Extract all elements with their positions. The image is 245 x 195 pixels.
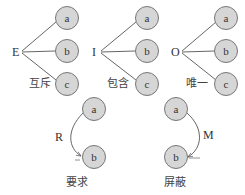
node-a: a (136, 7, 159, 30)
connector-line (22, 22, 56, 51)
operator-label: M (203, 128, 214, 142)
connector-line (101, 22, 136, 51)
operator-label: E (12, 45, 19, 59)
constraint-diagram: E a b c 互斥 I a b c 包含 (0, 0, 245, 195)
svg-text:a: a (224, 12, 229, 24)
connector-line (22, 51, 55, 52)
connector-line (101, 51, 135, 52)
node-a: a (56, 7, 79, 30)
node-c: c (56, 73, 79, 96)
connector-line (101, 53, 136, 80)
group-caption: 互斥 (29, 77, 51, 90)
svg-text:c: c (145, 78, 150, 90)
connector-line (22, 53, 56, 80)
svg-text:b: b (223, 45, 229, 57)
connector-line (182, 22, 216, 51)
group-exclusive: E a b c 互斥 (12, 7, 79, 96)
operator-label: I (92, 45, 96, 59)
group-inclusive: I a b c 包含 (92, 7, 159, 96)
svg-text:c: c (224, 78, 229, 90)
svg-text:b: b (173, 151, 179, 163)
svg-text:c: c (65, 78, 70, 90)
relation-caption: 要求 (66, 176, 88, 189)
operator-label: R (55, 130, 63, 144)
node-c: c (215, 73, 238, 96)
group-caption: 包含 (107, 76, 129, 90)
node-b: b (83, 146, 106, 169)
group-caption: 唯一 (186, 77, 208, 90)
masks-arrow (187, 113, 200, 157)
svg-text:b: b (91, 151, 97, 163)
operator-label: O (171, 45, 180, 59)
relation-requires: a b R 要求 (55, 98, 106, 190)
svg-text:a: a (92, 103, 97, 115)
node-a: a (83, 98, 106, 121)
node-c: c (136, 73, 159, 96)
svg-text:a: a (145, 12, 150, 24)
svg-text:b: b (64, 45, 70, 57)
node-b: b (215, 40, 238, 63)
node-a: a (215, 7, 238, 30)
requires-arrow (71, 113, 83, 156)
node-b: b (136, 40, 159, 63)
connector-line (182, 51, 215, 52)
svg-text:a: a (174, 103, 179, 115)
relation-masks: a b M 屏蔽 (164, 98, 214, 190)
node-a: a (165, 98, 188, 121)
node-b: b (165, 146, 188, 169)
group-unique: O a b c 唯一 (171, 7, 238, 96)
relation-caption: 屏蔽 (164, 176, 186, 189)
connector-line (182, 53, 216, 80)
node-b: b (56, 40, 79, 63)
svg-text:a: a (65, 12, 70, 24)
svg-text:b: b (144, 45, 150, 57)
